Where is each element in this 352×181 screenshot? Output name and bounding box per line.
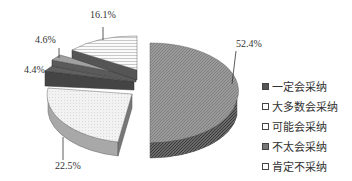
label-butai: 4.6% bbox=[35, 34, 56, 45]
legend-label: 肯定不采纳 bbox=[272, 158, 327, 174]
slice-dadoshu bbox=[150, 43, 239, 158]
legend-swatch-icon bbox=[262, 83, 269, 90]
label-dadoshu: 52.4% bbox=[236, 38, 262, 49]
legend-swatch-icon bbox=[262, 163, 269, 170]
legend-item: 大多数会采纳 bbox=[262, 96, 338, 116]
legend-swatch-icon bbox=[262, 143, 269, 150]
legend-label: 可能会采纳 bbox=[272, 118, 327, 134]
label-kending: 16.1% bbox=[90, 9, 116, 20]
legend-item: 肯定不采纳 bbox=[262, 156, 338, 176]
legend-item: 可能会采纳 bbox=[262, 116, 338, 136]
legend-label: 一定会采纳 bbox=[272, 78, 327, 94]
slice-keneng bbox=[47, 88, 132, 156]
legend-swatch-icon bbox=[262, 103, 269, 110]
legend-item: 不太会采纳 bbox=[262, 136, 338, 156]
legend-swatch-icon bbox=[262, 123, 269, 130]
legend-item: 一定会采纳 bbox=[262, 76, 338, 96]
label-yiding: 4.4% bbox=[24, 64, 45, 75]
legend-label: 大多数会采纳 bbox=[272, 98, 338, 114]
label-keneng: 22.5% bbox=[55, 160, 81, 171]
legend-label: 不太会采纳 bbox=[272, 138, 327, 154]
legend: 一定会采纳 大多数会采纳 可能会采纳 不太会采纳 肯定不采纳 bbox=[262, 76, 338, 176]
